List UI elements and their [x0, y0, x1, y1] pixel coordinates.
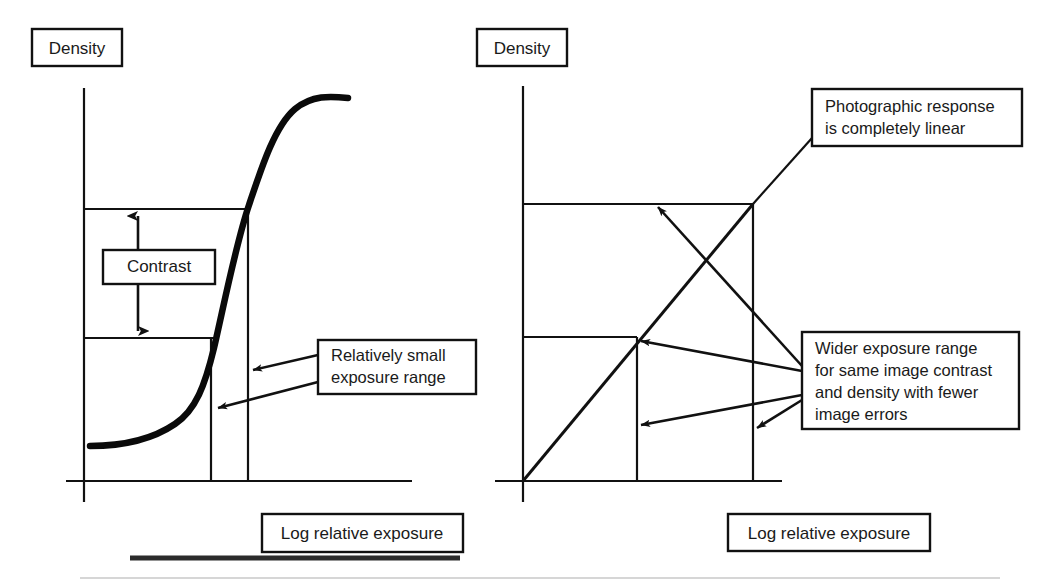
right-callout-linear-line-1: Photographic response — [825, 97, 995, 115]
left-density-label-text: Density — [49, 39, 106, 58]
right-callout-wider-line-3: and density with fewer — [815, 383, 979, 401]
right-callout-wider-line-2: for same image contrast — [815, 361, 992, 379]
right-callout-linear-line-2: is completely linear — [825, 119, 966, 137]
characteristic-curve-figure: Density Contrast Relatively small exposu… — [0, 0, 1060, 586]
contrast-label-text: Contrast — [127, 257, 192, 276]
right-exposure-label-text: Log relative exposure — [748, 524, 911, 543]
right-exposure-label: Log relative exposure — [728, 514, 930, 551]
left-density-label: Density — [32, 29, 122, 66]
left-exposure-label: Log relative exposure — [262, 514, 463, 552]
left-callout-line-2: exposure range — [331, 368, 446, 386]
figure-root: Density Contrast Relatively small exposu… — [0, 0, 1060, 586]
right-density-label-text: Density — [494, 39, 551, 58]
left-callout-line-1: Relatively small — [331, 346, 446, 364]
right-callout-wider-line-4: image errors — [815, 405, 908, 423]
right-callout-wider-line-1: Wider exposure range — [815, 339, 977, 357]
left-exposure-label-text: Log relative exposure — [281, 524, 444, 543]
right-density-label: Density — [477, 29, 567, 66]
